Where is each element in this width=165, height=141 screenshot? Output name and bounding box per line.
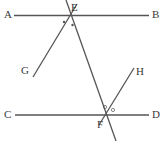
label-G: G <box>21 65 29 76</box>
angle-circle-f-right <box>111 108 114 111</box>
lines-group <box>14 0 149 141</box>
label-B: B <box>152 9 159 20</box>
label-D: D <box>152 109 160 120</box>
line-FH <box>99 68 134 125</box>
label-A: A <box>4 9 12 20</box>
label-C: C <box>4 109 11 120</box>
label-E: E <box>71 2 78 13</box>
angle-dot-e-left <box>63 21 65 23</box>
angle-dot-e-right <box>71 24 73 26</box>
label-H: H <box>136 66 144 77</box>
angle-marks-group <box>63 21 115 112</box>
label-F: F <box>97 119 103 130</box>
line-EF <box>66 0 116 141</box>
geometry-figure: A B C D E F G H <box>0 0 165 141</box>
